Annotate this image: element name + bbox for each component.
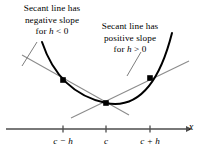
point-marker-c-minus-h <box>60 77 66 83</box>
point-marker-c-plus-h <box>147 75 153 81</box>
annotation-positive-line1: Secant line has <box>78 21 182 33</box>
annotation-positive-line2: positive slope <box>78 33 182 45</box>
secant-line-figure: Secant line has negative slope for h < 0… <box>0 0 204 154</box>
annotation-negative-line3-suffix: < 0 <box>54 26 69 36</box>
axis-tick-label-c-plus-h: c + h <box>130 136 170 146</box>
axis-tick-label-c-minus-h: c − h <box>43 136 83 146</box>
point-marker-c <box>103 100 109 106</box>
annotation-positive-line3: for h > 0 <box>78 44 182 56</box>
annotation-positive-line3-prefix: for <box>114 44 127 54</box>
annotation-negative-line1: Secant line has <box>4 3 100 15</box>
axis-tick-label-c: c <box>90 136 122 146</box>
x-axis-label: x <box>189 121 193 132</box>
secant-line-positive-slope <box>71 61 189 118</box>
secant-line-negative-slope <box>22 55 129 115</box>
annotation-positive-line3-suffix: > 0 <box>132 44 147 54</box>
annotation-positive-slope: Secant line has positive slope for h > 0 <box>78 21 182 56</box>
annotation-negative-line3-prefix: for <box>36 26 49 36</box>
